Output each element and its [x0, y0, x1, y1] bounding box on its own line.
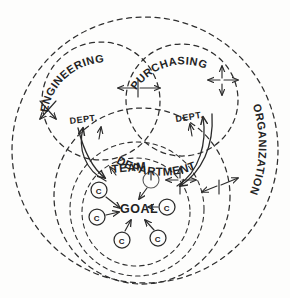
- arrow-c6-to-goal: [139, 188, 147, 199]
- label-organization: ORGANIZATION: [248, 102, 269, 197]
- node-c4[interactable]: C: [150, 230, 166, 246]
- label-dept-left: DEPT.: [69, 113, 98, 126]
- arrow-c4-to-goal: [145, 220, 154, 230]
- curve-right-down-arrow: [180, 114, 212, 186]
- node-c4-label: C: [155, 235, 161, 244]
- dept-left-stub-arrow: [99, 127, 101, 139]
- arrow-purchasing-right: [208, 66, 238, 95]
- arrow-c1-to-goal: [106, 197, 120, 208]
- boundary-organization: [12, 17, 278, 283]
- node-c2[interactable]: C: [89, 209, 105, 225]
- curve-left-up-arrow: [81, 128, 106, 181]
- node-c2-label: C: [94, 214, 100, 223]
- dept-right-stub-arrow: [190, 124, 192, 136]
- label-organization-text: ORGANIZATION: [248, 102, 269, 197]
- label-engineering-text: ENGINEERING: [38, 52, 105, 113]
- node-c3-label: C: [119, 237, 125, 246]
- arrow-dept-outer: [202, 178, 238, 194]
- arrow-c2-to-goal: [106, 212, 119, 215]
- node-c1-label: C: [96, 187, 102, 196]
- label-goal: GOAL: [120, 202, 158, 216]
- label-purchasing-text: PURCHASING: [128, 54, 209, 91]
- arrow-c3-to-goal: [125, 220, 131, 231]
- node-c1[interactable]: C: [91, 182, 107, 198]
- node-c5-label: C: [164, 204, 170, 213]
- org-goal-diagram: C C C C C ENGINEERING PURCHASING: [0, 0, 290, 298]
- diagram-canvas: C C C C C ENGINEERING PURCHASING: [0, 0, 290, 298]
- label-purchasing: PURCHASING: [128, 54, 209, 91]
- label-dept-right: DEPT.: [175, 110, 204, 124]
- node-c3[interactable]: C: [114, 232, 130, 248]
- label-engineering: ENGINEERING: [38, 52, 105, 113]
- node-c5[interactable]: C: [159, 199, 175, 215]
